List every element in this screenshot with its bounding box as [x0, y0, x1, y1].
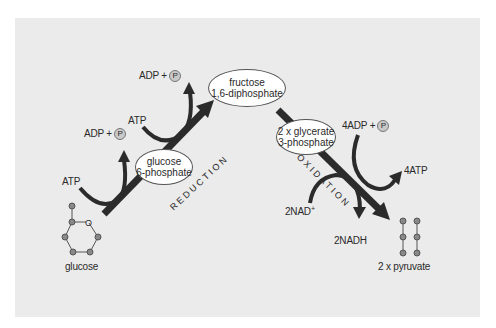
adp-upper-text: ADP + [139, 70, 167, 81]
phosphate-icon: P [114, 128, 126, 140]
phosphate-icon: P [377, 120, 389, 132]
oxygen-atom-label: O [85, 218, 92, 228]
adp-to-atp-arrow [354, 135, 402, 189]
phosphate-icon: P [169, 70, 181, 82]
atp-to-adp-lower-arrow [80, 150, 130, 204]
fructose-diphosphate-node: fructose 1,6-diphosphate [208, 69, 286, 107]
pyruvate-molecules-icon [400, 218, 420, 256]
nad-text: 2NAD [285, 206, 311, 217]
fructose-label-line1: fructose [229, 77, 265, 88]
glucose-6-phosphate-node: glucose 6-phosphate [135, 149, 193, 185]
pathway-arrows: O [0, 0, 496, 328]
g3p-label-line2: 3-phosphate [278, 137, 334, 148]
4atp-label: 4ATP [404, 166, 427, 176]
4adp-label: 4ADP +P [342, 120, 389, 132]
g6p-label-line1: glucose [147, 156, 181, 167]
nadh-label: 2NADH [334, 236, 367, 246]
glucose-label: glucose [65, 262, 98, 272]
pyruvate-label: 2 x pyruvate [378, 262, 430, 272]
glycerate-3-phosphate-node: 2 x glycerate 3-phosphate [276, 119, 336, 155]
g6p-label-line2: 6-phosphate [136, 167, 192, 178]
nad-superscript: + [311, 205, 315, 212]
adp-upper-label: ADP +P [139, 70, 181, 82]
4adp-text: 4ADP + [342, 120, 375, 131]
atp-upper-label: ATP [128, 116, 146, 126]
adp-lower-text: ADP + [84, 128, 112, 139]
adp-lower-label: ADP +P [84, 128, 126, 140]
glucose-molecule-icon [62, 203, 101, 255]
atp-lower-label: ATP [62, 177, 80, 187]
nad-label: 2NAD+ [285, 205, 315, 217]
fructose-label-line2: 1,6-diphosphate [211, 88, 283, 99]
g3p-label-line1: 2 x glycerate [278, 126, 335, 137]
